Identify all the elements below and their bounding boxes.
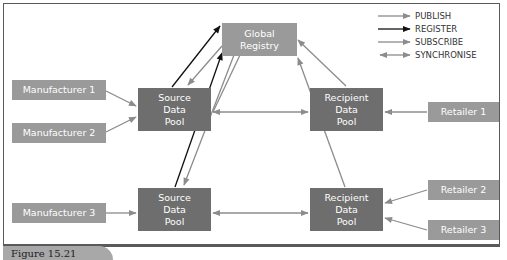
source-pool-bottom-line1: Source: [158, 192, 191, 204]
legend-item-register: REGISTER: [375, 23, 477, 36]
legend-label-publish: PUBLISH: [415, 11, 451, 21]
legend-item-synchronise: SYNCHRONISE: [375, 49, 477, 62]
source-pool-top-line1: Source: [158, 92, 191, 104]
legend: PUBLISH REGISTER SUBSCRIBE SYNCHRONISE: [375, 10, 477, 62]
manufacturer-3-box: Manufacturer 3: [12, 203, 106, 223]
recipient-data-pool-bottom: Recipient Data Pool: [310, 188, 383, 231]
recipient-pool-top-line1: Recipient: [324, 92, 368, 104]
manufacturer-1-label: Manufacturer 1: [23, 84, 96, 96]
figure-caption: Figure 15.21: [3, 246, 113, 260]
recipient-data-pool-top: Recipient Data Pool: [310, 88, 383, 131]
recipient-pool-bottom-line1: Recipient: [324, 192, 368, 204]
arrow-m1-to-source: [106, 91, 136, 106]
recipient-pool-bottom-line3: Pool: [337, 216, 357, 228]
manufacturer-3-label: Manufacturer 3: [23, 207, 96, 219]
source-data-pool-top: Source Data Pool: [138, 88, 211, 131]
legend-label-subscribe: SUBSCRIBE: [415, 37, 463, 47]
source-pool-top-line2: Data: [163, 104, 186, 116]
source-pool-bottom-line2: Data: [163, 204, 186, 216]
legend-label-register: REGISTER: [415, 24, 457, 34]
legend-item-publish: PUBLISH: [375, 10, 477, 23]
source-pool-top-line3: Pool: [165, 116, 185, 128]
retailer-1-box: Retailer 1: [428, 102, 499, 122]
retailer-2-label: Retailer 2: [441, 184, 487, 196]
source-pool-bottom-line3: Pool: [165, 216, 185, 228]
legend-item-subscribe: SUBSCRIBE: [375, 36, 477, 49]
arrow-registry-to-source-top: [188, 46, 222, 85]
legend-label-synchronise: SYNCHRONISE: [415, 50, 477, 60]
retailer-2-box: Retailer 2: [428, 180, 499, 200]
global-registry-line1: Global: [244, 28, 274, 40]
source-data-pool-bottom: Source Data Pool: [138, 188, 211, 231]
manufacturer-1-box: Manufacturer 1: [12, 80, 106, 100]
arrow-r3-to-recipient: [385, 218, 427, 230]
recipient-pool-bottom-line2: Data: [335, 204, 358, 216]
manufacturer-2-box: Manufacturer 2: [12, 123, 106, 143]
global-registry-line2: Registry: [240, 40, 279, 52]
manufacturer-2-label: Manufacturer 2: [23, 127, 96, 139]
global-registry-box: Global Registry: [222, 23, 297, 56]
arrow-registry-line-to-source-top-side: [213, 55, 240, 112]
arrow-r2-to-recipient: [385, 190, 427, 203]
recipient-pool-top-line2: Data: [335, 104, 358, 116]
retailer-3-label: Retailer 3: [441, 224, 487, 236]
arrow-m2-to-source: [106, 117, 136, 132]
retailer-1-label: Retailer 1: [441, 106, 487, 118]
recipient-pool-top-line3: Pool: [337, 116, 357, 128]
retailer-3-box: Retailer 3: [428, 220, 499, 240]
